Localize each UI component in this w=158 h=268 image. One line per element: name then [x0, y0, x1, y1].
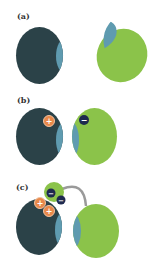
minus-charge-icon: − [79, 115, 89, 125]
plus-charge-icon: + [44, 206, 55, 217]
plus-charge-icon: + [35, 198, 46, 209]
diagram-canvas: + − + + − [0, 0, 158, 268]
green-cell [61, 108, 117, 165]
dark-cell [16, 27, 76, 84]
svg-text:+: + [37, 199, 44, 208]
svg-text:+: + [46, 207, 53, 216]
svg-text:−: − [58, 197, 64, 205]
green-cell [74, 14, 156, 91]
panel-c: + + − − [16, 182, 119, 258]
plus-charge-icon: + [44, 116, 55, 127]
svg-text:+: + [46, 117, 53, 126]
green-cell [63, 204, 119, 258]
minus-charge-icon: − [57, 196, 66, 206]
panel-b: + − [16, 108, 117, 165]
connecting-arc [62, 187, 86, 206]
panel-a [16, 14, 156, 91]
svg-text:−: − [48, 190, 54, 198]
svg-text:−: − [81, 116, 88, 125]
